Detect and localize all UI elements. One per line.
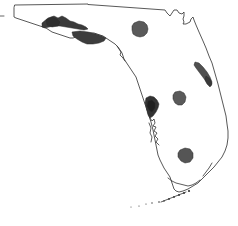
key-dot <box>151 202 152 203</box>
florida-state-boundary <box>14 4 228 192</box>
key-dot <box>168 198 170 200</box>
key-dot <box>173 196 175 198</box>
florida-map-svg <box>0 0 238 226</box>
key-dot <box>131 207 132 208</box>
key-dot <box>158 201 160 203</box>
key-dot <box>145 203 146 204</box>
key-dot <box>163 200 165 202</box>
key-dot <box>178 194 180 196</box>
key-dot <box>138 205 139 206</box>
key-dot <box>183 192 185 194</box>
key-dot <box>188 190 190 192</box>
north-central-shade <box>132 21 148 37</box>
central-inland-shade <box>173 91 186 105</box>
map-container <box>0 0 238 226</box>
